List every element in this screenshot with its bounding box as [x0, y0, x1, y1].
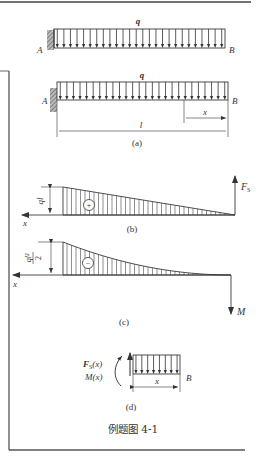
- figure-caption: 例题图 4-1: [108, 423, 158, 435]
- distributed-load-box: [57, 82, 228, 100]
- fixed-support-hatch: [50, 88, 57, 112]
- dimension-l-label: l: [140, 120, 143, 130]
- subfigure-label-d: (d): [126, 402, 137, 412]
- example-figure-4-1: q A B q A B x l (a) FS x ql + (b: [0, 0, 267, 465]
- fixed-support-hatch: [47, 30, 54, 50]
- subfigure-label-a: (a): [132, 138, 142, 148]
- x-axis-label: x: [12, 279, 17, 289]
- svg-text:ql²: ql²: [24, 253, 33, 262]
- bending-moment-diagram: M x ql² 2 − (c): [12, 242, 246, 327]
- subfigure-label-c: (c): [119, 317, 129, 327]
- shear-force-label: FS(x): [82, 359, 102, 370]
- end-label-b: B: [186, 373, 192, 383]
- moment-label: M(x): [84, 372, 103, 382]
- free-body-diagram: FS(x) M(x) B x (d): [82, 353, 192, 412]
- support-label-a: A: [36, 45, 43, 55]
- shear-force-diagram: FS x ql + (b): [22, 176, 250, 234]
- dimension-x-label: x: [202, 107, 207, 117]
- fs-axis-label: FS: [240, 181, 250, 193]
- max-moment-label: ql² 2: [24, 252, 43, 264]
- cantilever-beam-top: q A B: [36, 16, 235, 55]
- distributed-load-box: [54, 29, 225, 48]
- moment-arc-arrow: [115, 356, 122, 386]
- dimension-x-label: x: [154, 376, 159, 386]
- max-shear-label: ql: [35, 197, 45, 205]
- positive-sign: +: [87, 201, 92, 210]
- negative-sign: −: [86, 259, 91, 268]
- load-arrows: [59, 82, 227, 100]
- load-arrows: [134, 355, 178, 374]
- end-label-b: B: [232, 96, 238, 106]
- svg-text:2: 2: [34, 256, 43, 260]
- load-label-q: q: [136, 16, 141, 26]
- m-axis-label: M: [236, 306, 246, 317]
- load-arrows: [56, 29, 224, 48]
- subfigure-label-b: (b): [127, 224, 138, 234]
- page-frame: [0, 2, 251, 450]
- cantilever-beam-a: q A B x l (a): [41, 70, 238, 148]
- support-label-a: A: [41, 96, 48, 106]
- load-label-q: q: [140, 70, 145, 80]
- x-axis-label: x: [22, 218, 27, 228]
- end-label-b: B: [229, 45, 235, 55]
- distributed-load-box: [133, 355, 180, 374]
